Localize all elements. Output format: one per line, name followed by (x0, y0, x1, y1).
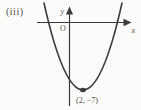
vertex-marker (80, 88, 86, 92)
x-axis-arrowhead-icon (124, 19, 132, 26)
parabola-plot: y x O (2, −7) (0, 0, 141, 110)
vertex-coordinates-label: (2, −7) (76, 96, 98, 105)
parabola-curve (44, 3, 122, 90)
x-axis-label: x (131, 26, 136, 35)
y-axis-label: y (59, 7, 64, 16)
origin-label: O (60, 24, 66, 33)
parabola-figure: (iii) y x O (2, −7) (0, 0, 141, 110)
y-axis-arrowhead-icon (66, 7, 73, 15)
